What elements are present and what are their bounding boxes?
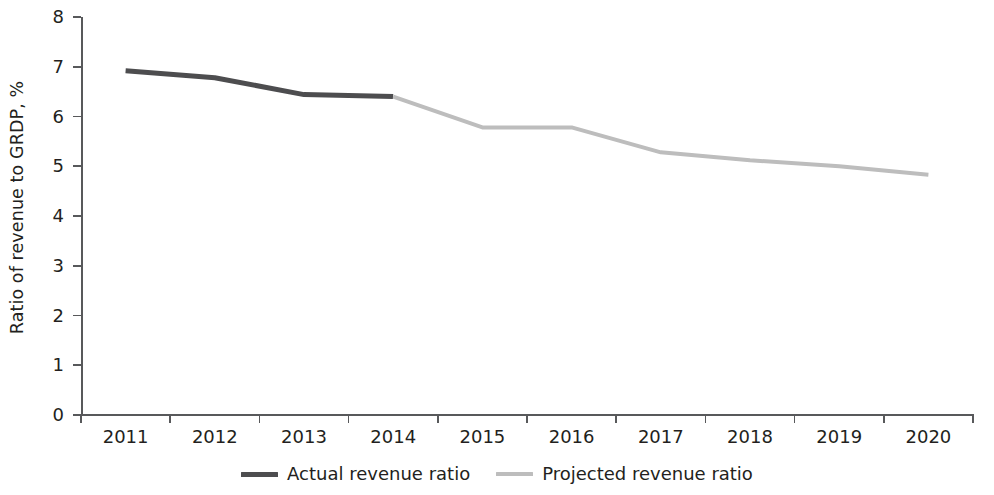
y-axis-line [81,17,83,416]
legend-item[interactable]: Projected revenue ratio [496,465,753,483]
x-tick-label: 2016 [527,428,617,446]
x-tick-label: 2020 [883,428,973,446]
legend-label: Actual revenue ratio [287,465,470,483]
x-tick-label: 2012 [170,428,260,446]
y-tick-mark [73,265,81,267]
x-tick-label: 2011 [81,428,171,446]
y-tick-label: 2 [24,307,64,325]
y-tick-label: 0 [24,406,64,424]
x-tick-label: 2017 [616,428,706,446]
x-tick-mark [526,414,528,423]
y-tick-label: 1 [24,356,64,374]
x-tick-mark [437,414,439,423]
x-tick-mark [972,414,974,423]
series-line-projected [393,97,928,175]
y-tick-label: 5 [24,157,64,175]
x-tick-mark [705,414,707,423]
x-tick-mark [259,414,261,423]
x-tick-label: 2018 [705,428,795,446]
y-tick-mark [73,315,81,317]
y-tick-label: 6 [24,108,64,126]
y-tick-label: 4 [24,207,64,225]
x-tick-label: 2014 [348,428,438,446]
legend-swatch [496,472,533,476]
chart-legend: Actual revenue ratioProjected revenue ra… [0,459,994,489]
legend-swatch [241,472,278,477]
series-layer [0,0,994,495]
legend-item[interactable]: Actual revenue ratio [241,465,470,483]
x-tick-label: 2013 [259,428,349,446]
y-tick-label: 7 [24,58,64,76]
x-tick-label: 2015 [437,428,527,446]
x-tick-mark [883,414,885,423]
y-tick-label: 8 [24,8,64,26]
y-tick-mark [73,165,81,167]
y-tick-label: 3 [24,257,64,275]
x-tick-mark [80,414,82,423]
series-line-actual [126,71,394,97]
y-tick-mark [73,66,81,68]
y-tick-mark [73,215,81,217]
x-tick-mark [169,414,171,423]
x-tick-mark [348,414,350,423]
x-tick-mark [794,414,796,423]
line-chart: Ratio of revenue to GRDP, % 876543210 20… [0,0,994,495]
legend-label: Projected revenue ratio [542,465,753,483]
x-tick-mark [615,414,617,423]
x-tick-label: 2019 [794,428,884,446]
y-tick-mark [73,364,81,366]
y-tick-mark [73,116,81,118]
y-tick-mark [73,16,81,18]
